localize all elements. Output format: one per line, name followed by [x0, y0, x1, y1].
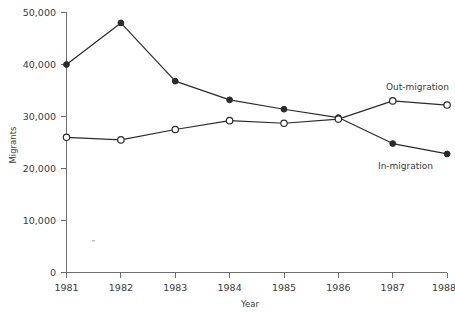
y-tick-label-0: 0 — [50, 267, 56, 278]
data-point — [63, 134, 69, 140]
x-axis-title: Year — [240, 299, 260, 309]
x-tick-label-1983: 1983 — [163, 282, 187, 293]
data-point — [118, 20, 124, 26]
y-tick-label-20000: 20,000 — [23, 163, 56, 174]
x-tick-labels: 1981 1982 1983 1984 1985 1986 1987 1988 — [54, 282, 455, 293]
x-tick-label-1981: 1981 — [54, 282, 78, 293]
scan-speck — [92, 240, 95, 242]
migration-line-chart: 50,000 40,000 30,000 20,000 10,000 0 198… — [0, 0, 455, 313]
data-point — [390, 98, 396, 104]
x-tick-label-1988: 1988 — [432, 282, 455, 293]
x-tick-label-1985: 1985 — [272, 282, 296, 293]
data-point — [444, 151, 450, 157]
data-point — [118, 137, 124, 143]
y-tick-marks — [61, 13, 67, 273]
data-point — [390, 141, 396, 147]
data-point — [64, 62, 70, 68]
data-point — [281, 106, 287, 112]
data-point — [172, 126, 178, 132]
y-tick-label-40000: 40,000 — [23, 59, 56, 70]
data-point — [444, 102, 450, 108]
data-point — [281, 120, 287, 126]
annotation-out-migration: Out-migration — [386, 82, 449, 92]
x-tick-label-1982: 1982 — [109, 282, 133, 293]
x-tick-label-1987: 1987 — [381, 282, 405, 293]
series-line-out-migration — [67, 101, 448, 140]
y-tick-label-30000: 30,000 — [23, 111, 56, 122]
x-tick-label-1984: 1984 — [218, 282, 242, 293]
data-point — [172, 78, 178, 84]
y-tick-labels: 50,000 40,000 30,000 20,000 10,000 0 — [23, 7, 56, 278]
chart-canvas: 50,000 40,000 30,000 20,000 10,000 0 198… — [0, 0, 455, 313]
x-tick-marks — [67, 273, 448, 279]
data-point — [227, 97, 233, 103]
data-point — [335, 116, 341, 122]
y-axis-title: Migrants — [8, 126, 18, 164]
y-tick-label-10000: 10,000 — [23, 215, 56, 226]
annotation-in-migration: In-migration — [378, 161, 433, 171]
x-tick-label-1986: 1986 — [326, 282, 350, 293]
y-tick-label-50000: 50,000 — [23, 7, 56, 18]
data-point — [226, 117, 232, 123]
